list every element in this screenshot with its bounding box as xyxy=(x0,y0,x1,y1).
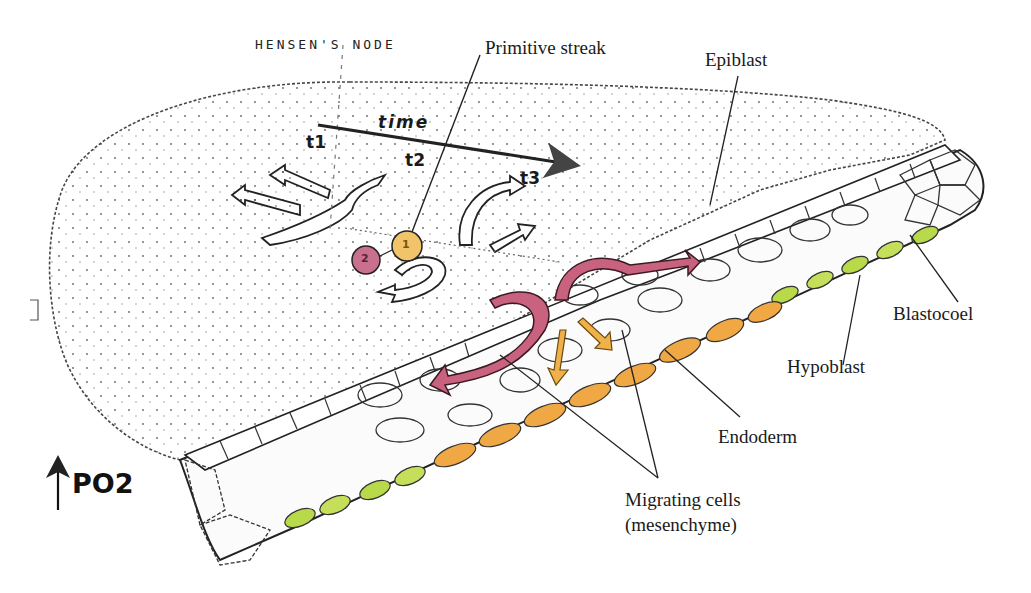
po2-label: PO2 xyxy=(72,468,134,499)
up-arrow-icon xyxy=(46,455,70,510)
po2-indicator: PO2 xyxy=(72,468,134,499)
label-epiblast: Epiblast xyxy=(705,50,767,71)
diagram-canvas xyxy=(0,0,1031,593)
label-t3: t3 xyxy=(520,168,540,188)
cell-1-number: 1 xyxy=(402,238,410,251)
hensens-node-note: HENSEN'S NODE xyxy=(255,37,396,52)
label-hypoblast: Hypoblast xyxy=(787,357,865,378)
label-time: time xyxy=(378,112,429,132)
label-primitive-streak: Primitive streak xyxy=(485,38,606,59)
cell-2-number: 2 xyxy=(361,252,369,265)
gastrulation-diagram: HENSEN'S NODE Primitive streak Epiblast … xyxy=(0,0,1031,593)
label-t2: t2 xyxy=(405,150,425,170)
label-migrating-cells: Migrating cells xyxy=(625,490,741,511)
label-t1: t1 xyxy=(306,132,326,152)
label-mesenchyme: (mesenchyme) xyxy=(625,515,737,536)
label-endoderm: Endoderm xyxy=(718,427,797,448)
label-blastocoel: Blastocoel xyxy=(893,304,973,325)
